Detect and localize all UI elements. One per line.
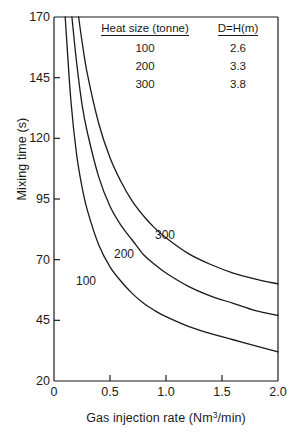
legend-table: Heat size (tonne) D=H(m) 1002.62003.3300… [86,22,272,93]
x-tick-label: 1.0 [157,386,174,399]
legend-header-heat-size: Heat size (tonne) [86,22,204,39]
y-tick-label: 45 [16,314,50,327]
x-axis-title: Gas injection rate (Nm3/min) [54,410,278,425]
curve-label-100: 100 [76,275,96,287]
legend-cell-heat-size: 200 [86,57,204,75]
legend-grid: Heat size (tonne) D=H(m) 1002.62003.3300… [86,22,272,93]
x-axis-ticks [110,375,222,381]
legend-row: 2003.3 [86,57,272,75]
legend-cell-heat-size: 100 [86,39,204,57]
x-tick-label: 0.5 [101,386,118,399]
legend-body: 1002.62003.33003.8 [86,39,272,93]
x-axis-title-tail: /min) [218,411,246,425]
x-tick-label: 0 [51,386,58,399]
legend-row: 3003.8 [86,75,272,93]
legend-cell-heat-size: 300 [86,75,204,93]
y-axis-title: Mixing time (s) [15,79,29,239]
y-tick-label: 170 [16,11,50,24]
legend-cell-d-h: 3.3 [204,57,272,75]
y-tick-label: 70 [16,254,50,267]
x-tick-label: 2.0 [269,386,286,399]
curve-label-300: 300 [155,229,175,241]
legend-cell-d-h: 3.8 [204,75,272,93]
legend-row: 1002.6 [86,39,272,57]
x-tick-label: 1.5 [213,386,230,399]
legend-header-d-h: D=H(m) [204,22,272,39]
x-axis-tick-labels: 00.51.01.52.0 [0,386,292,402]
x-axis-title-base: Gas injection rate (Nm [86,411,213,425]
mixing-time-chart: 20457095120145170 00.51.01.52.0 Mixing t… [0,0,292,440]
legend-cell-d-h: 2.6 [204,39,272,57]
legend-header-row: Heat size (tonne) D=H(m) [86,22,272,39]
curve-label-200: 200 [114,248,134,260]
y-axis-ticks [54,78,60,321]
